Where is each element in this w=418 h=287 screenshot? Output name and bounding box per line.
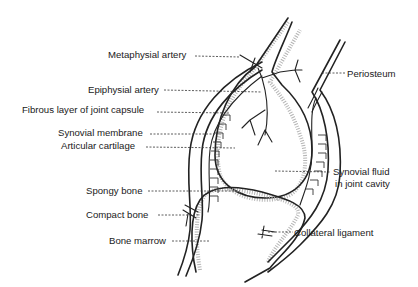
label-bone-marrow: Bone marrow — [109, 235, 166, 246]
lower-bone-spongy — [197, 189, 298, 270]
label-epiphysial-artery: Epiphysial artery — [88, 84, 159, 95]
right-hatching — [305, 135, 326, 195]
label-synovial-fluid-line1: Synovial fluid — [333, 166, 390, 177]
label-collateral-ligament: Collateral ligament — [294, 227, 374, 238]
leader-lines — [146, 56, 345, 241]
label-synovial-membrane: Synovial membrane — [58, 127, 143, 138]
label-spongy-bone: Spongy bone — [86, 185, 143, 196]
label-fibrous-layer: Fibrous layer of joint capsule — [22, 104, 144, 115]
label-compact-bone: Compact bone — [86, 209, 148, 220]
upper-bone-spongy — [218, 22, 306, 200]
label-articular-cartilage: Articular cartilage — [61, 140, 135, 151]
label-synovial-fluid-line2: in joint cavity — [335, 178, 390, 189]
upper-bone-outline — [215, 18, 312, 198]
label-periosteum: Periosteum — [347, 68, 396, 79]
joint-capsule-left-outer — [178, 62, 262, 275]
synovial-joint-diagram: Metaphysial artery Epiphysial artery Fib… — [0, 0, 418, 287]
label-metaphysial-artery: Metaphysial artery — [108, 49, 187, 60]
joint-capsule-left-inner — [186, 70, 262, 276]
